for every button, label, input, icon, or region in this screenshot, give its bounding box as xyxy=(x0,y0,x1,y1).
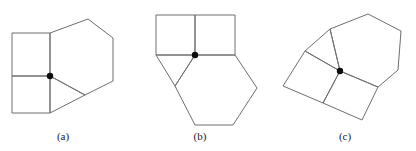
figure-panel: (a) (b) (c) xyxy=(0,0,416,151)
panel-a-square-lower-left xyxy=(12,76,50,113)
panel-a-hexagon-right xyxy=(50,19,113,95)
panel-b-vertex-dot xyxy=(192,52,198,58)
panel-b-square-upper-right xyxy=(195,15,235,55)
caption-a: (a) xyxy=(43,130,83,142)
panel-c xyxy=(283,14,401,120)
caption-c: (c) xyxy=(325,130,365,142)
panel-a-square-upper-left xyxy=(12,33,50,76)
polygon-tiling-diagram xyxy=(0,0,416,151)
panel-a-vertex-dot xyxy=(47,73,53,79)
panel-a xyxy=(12,19,113,113)
panel-c-triangle-upper-left xyxy=(305,29,340,71)
panel-c-hexagon-upper-right xyxy=(330,14,401,87)
panel-c-square-right xyxy=(323,71,378,120)
panel-b-hexagon-lower xyxy=(175,55,257,125)
panel-c-vertex-dot xyxy=(337,68,343,74)
panel-b-square-upper-left xyxy=(156,15,195,55)
caption-b: (b) xyxy=(180,130,220,142)
panel-b-triangle-left xyxy=(156,55,195,86)
panel-a-triangle-lower xyxy=(50,76,85,113)
panel-c-square-left xyxy=(283,51,340,103)
panel-b xyxy=(156,15,257,125)
